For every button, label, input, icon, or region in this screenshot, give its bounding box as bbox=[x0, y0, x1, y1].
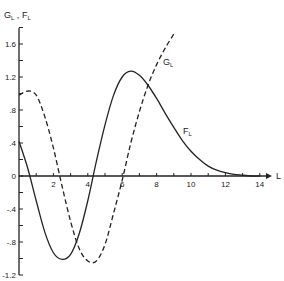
x-tick-label: 12 bbox=[221, 180, 230, 189]
x-tick-label: 14 bbox=[255, 180, 264, 189]
chart: 2468101214-1.2-.8-.40.4.81.21.6 GL , FL … bbox=[0, 0, 284, 281]
x-tick-label: 8 bbox=[154, 180, 159, 189]
x-tick-label: 10 bbox=[187, 180, 196, 189]
y-tick-label: .4 bbox=[9, 139, 16, 148]
f-curve-line bbox=[19, 71, 260, 259]
y-tick-label: -1.2 bbox=[2, 271, 16, 280]
y-tick-label: .8 bbox=[9, 106, 16, 115]
y-tick-label: -.4 bbox=[7, 205, 17, 214]
x-tick-label: 4 bbox=[86, 180, 91, 189]
x-tick-label: 2 bbox=[51, 180, 56, 189]
y-axis-label: GL , FL bbox=[4, 10, 31, 21]
y-tick-label: 0 bbox=[12, 172, 17, 181]
ticks bbox=[19, 28, 260, 276]
x-axis-label: L bbox=[276, 171, 281, 181]
axes bbox=[19, 28, 272, 275]
g-curve-line bbox=[19, 34, 174, 263]
x-axis-arrow-icon bbox=[266, 173, 272, 179]
g-curve-label: GL bbox=[163, 57, 174, 68]
y-tick-label: 1.2 bbox=[5, 73, 17, 82]
tick-labels: 2468101214-1.2-.8-.40.4.81.21.6 bbox=[2, 40, 265, 280]
f-curve-label: FL bbox=[183, 126, 193, 137]
y-tick-label: 1.6 bbox=[5, 40, 17, 49]
y-tick-label: -.8 bbox=[7, 238, 17, 247]
